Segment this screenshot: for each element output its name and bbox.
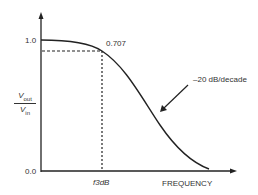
y-axis-arrow-icon [39, 12, 44, 19]
y-axis-numerator: Vout [14, 91, 36, 104]
diagram-canvas [0, 0, 258, 195]
f3db-tick-label: f3dB [93, 178, 109, 187]
y-tick-0: 0.0 [25, 167, 36, 176]
response-curve [41, 40, 209, 169]
rolloff-arrow [164, 85, 188, 108]
x-axis-label: FREQUENCY [162, 179, 212, 188]
x-axis-arrow-icon [230, 169, 237, 174]
y-tick-1: 1.0 [25, 36, 36, 45]
y-axis-denominator: Vin [14, 104, 36, 116]
y-axis-label: Vout Vin [14, 91, 36, 115]
cutoff-value-label: 0.707 [106, 39, 126, 48]
rolloff-label: –20 dB/decade [193, 75, 247, 84]
